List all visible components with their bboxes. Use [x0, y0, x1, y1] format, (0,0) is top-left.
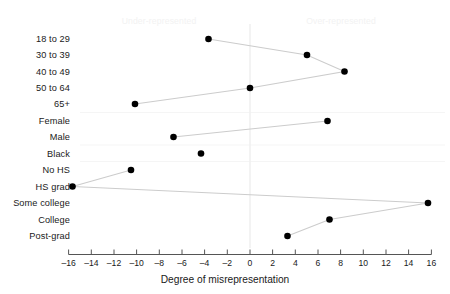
- data-point-65-plus[interactable]: [132, 101, 139, 108]
- data-point-30-to-39[interactable]: [304, 52, 311, 59]
- x-tick-4: 4: [293, 258, 298, 268]
- x-tick-minus-2: –2: [223, 258, 233, 268]
- x-tick-minus-6: –6: [177, 258, 187, 268]
- x-tick-14: 14: [404, 258, 414, 268]
- x-tick-minus-4: –4: [200, 258, 210, 268]
- plot-canvas: [0, 0, 450, 294]
- x-tick-8: 8: [338, 258, 343, 268]
- data-point-female[interactable]: [324, 118, 331, 125]
- data-point-18-to-29[interactable]: [205, 36, 212, 43]
- data-point-40-to-49[interactable]: [341, 68, 348, 75]
- data-point-50-to-64[interactable]: [247, 85, 254, 92]
- data-point-male[interactable]: [170, 134, 177, 141]
- x-tick-2: 2: [270, 258, 275, 268]
- x-tick-0: 0: [248, 258, 253, 268]
- x-tick-minus-16: –16: [61, 258, 75, 268]
- x-tick-16: 16: [427, 258, 437, 268]
- x-tick-10: 10: [359, 258, 369, 268]
- x-tick-minus-14: –14: [84, 258, 98, 268]
- x-tick-minus-10: –10: [129, 258, 143, 268]
- x-axis-title: Degree of misrepresentation: [0, 274, 450, 285]
- data-point-post-grad[interactable]: [284, 233, 291, 240]
- x-axis-line: [69, 250, 432, 255]
- data-point-black[interactable]: [198, 150, 205, 157]
- connector-age: [135, 39, 345, 104]
- data-point-hs-grad[interactable]: [69, 183, 76, 190]
- x-tick-12: 12: [381, 258, 391, 268]
- misrepresentation-dot-chart: Under-represented Over-represented 18 to…: [0, 0, 450, 294]
- data-point-some-college[interactable]: [425, 200, 432, 207]
- data-point-no-hs[interactable]: [128, 167, 135, 174]
- group-separators: [80, 113, 445, 162]
- x-tick-6: 6: [316, 258, 321, 268]
- x-tick-minus-12: –12: [107, 258, 121, 268]
- x-tick-minus-8: –8: [155, 258, 165, 268]
- data-point-college[interactable]: [326, 216, 333, 223]
